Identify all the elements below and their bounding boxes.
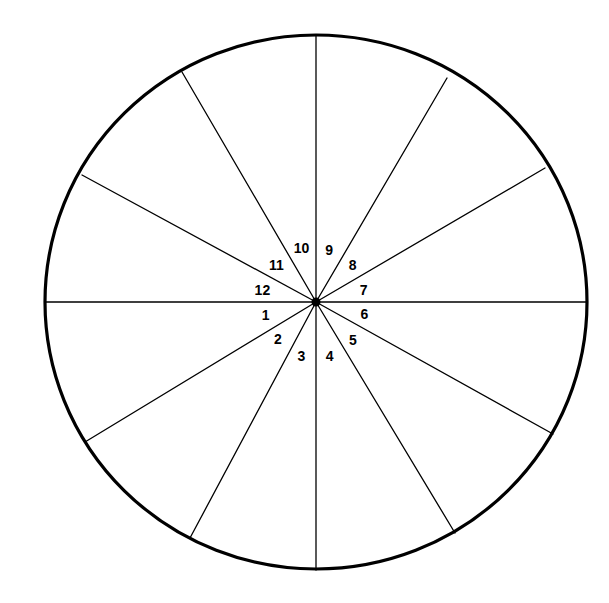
divider-line-upper-left-steep — [182, 72, 316, 302]
divider-line-lower-left-steep — [190, 302, 316, 538]
sector-label-11: 11 — [269, 258, 284, 272]
divider-line-upper-right-steep — [316, 78, 447, 302]
sector-label-8: 8 — [349, 258, 357, 272]
divider-line-lower-right — [316, 302, 553, 434]
center-point-dot — [312, 298, 321, 307]
sector-label-10: 10 — [294, 241, 310, 255]
sector-label-3: 3 — [298, 349, 306, 363]
sector-label-6: 6 — [361, 307, 369, 321]
sector-label-12: 12 — [255, 283, 271, 297]
circle-diagram-figure: 1 2 3 4 5 6 7 8 9 10 11 12 — [0, 0, 609, 603]
divider-line-lower-right-steep — [316, 302, 455, 533]
divider-line-lower-left — [85, 302, 316, 442]
sector-label-1: 1 — [262, 308, 270, 322]
divider-line-upper-right — [316, 168, 545, 302]
sector-label-4: 4 — [326, 349, 334, 363]
sector-label-2: 2 — [274, 332, 282, 346]
sector-label-7: 7 — [360, 283, 368, 297]
sector-wheel-svg — [0, 0, 609, 603]
sector-label-9: 9 — [325, 243, 333, 257]
divider-line-upper-left — [82, 175, 316, 302]
sector-label-5: 5 — [349, 333, 357, 347]
